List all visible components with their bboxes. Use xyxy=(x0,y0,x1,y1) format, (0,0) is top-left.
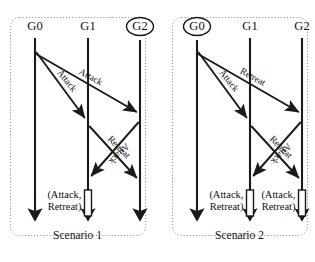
decision-label-line: Retreat) xyxy=(210,201,244,213)
lifeline-label-g1: G1 xyxy=(80,19,95,33)
decision-box-g1 xyxy=(85,190,92,216)
decision-label-line: Retreat) xyxy=(262,201,296,213)
message-arrow-g0-to-g2-1 xyxy=(198,54,299,112)
decision-label-line: Retreat) xyxy=(48,201,82,213)
lifeline-label-g0: G0 xyxy=(27,19,42,33)
lifeline-label-g2: G2 xyxy=(294,19,309,33)
diagram-svg: G0G1G2AttackAttackAttackRetreat(Attack,R… xyxy=(0,0,315,262)
panel-scenario-1: G0G1G2AttackAttackAttackRetreat(Attack,R… xyxy=(11,18,154,242)
message-label-group-1: Attack xyxy=(77,66,104,87)
decision-label-g2: (Attack,Retreat) xyxy=(261,189,296,213)
figure-canvas: G0G1G2AttackAttackAttackRetreat(Attack,R… xyxy=(0,0,315,262)
decision-label-g1: (Attack,Retreat) xyxy=(47,189,82,213)
decision-box-g2 xyxy=(299,190,306,216)
lifeline-label-g1: G1 xyxy=(242,19,257,33)
decision-label-g1: (Attack,Retreat) xyxy=(209,189,244,213)
panel-caption-scenario-2: Scenario 2 xyxy=(215,229,264,241)
lifeline-label-g0: G0 xyxy=(189,19,204,33)
panel-caption-scenario-1: Scenario 1 xyxy=(53,229,102,241)
decision-label-line: (Attack, xyxy=(47,189,81,201)
message-label-1: Attack xyxy=(77,66,104,87)
decision-label-line: (Attack, xyxy=(261,189,295,201)
decision-box-g1 xyxy=(247,190,254,216)
message-arrow-g0-to-g2-1 xyxy=(36,54,137,112)
lifeline-label-g2: G2 xyxy=(132,19,147,33)
decision-label-line: (Attack, xyxy=(209,189,243,201)
panel-scenario-2: G0G1G2AttackRetreatAttackRetreat(Attack,… xyxy=(173,18,310,242)
